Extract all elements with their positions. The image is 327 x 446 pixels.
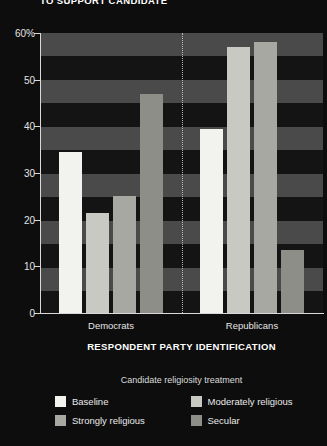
legend-item-label: Strongly religious [72, 415, 145, 426]
legend-title: Candidate religiosity treatment [40, 375, 323, 385]
bar-republicans-strongly-religious [254, 42, 277, 313]
y-tick-label-50: 50 [0, 75, 35, 86]
legend-item-strongly-religious: Strongly religious [55, 415, 185, 426]
legend-swatch-icon [191, 396, 202, 407]
legend-swatch-icon [55, 415, 66, 426]
bar-group-democrats [40, 33, 182, 313]
y-tick-label-0: 0 [0, 308, 35, 319]
bar-chart: TO SUPPORT CANDIDATE [0, 0, 327, 446]
x-axis-title: RESPONDENT PARTY IDENTIFICATION [40, 341, 323, 352]
legend: Baseline Moderately religious Strongly r… [55, 396, 320, 426]
legend-item-secular: Secular [191, 415, 321, 426]
legend-item-moderately-religious: Moderately religious [191, 396, 321, 407]
chart-title: TO SUPPORT CANDIDATE [40, 0, 167, 6]
x-category-label-republicans: Republicans [226, 320, 278, 331]
y-tick-label-30: 30 [0, 168, 35, 179]
y-axis-line [40, 33, 41, 314]
y-tick-label-10: 10 [0, 261, 35, 272]
bar-democrats-secular [140, 94, 163, 313]
legend-item-label: Moderately religious [208, 396, 293, 407]
bar-group-republicans [182, 33, 324, 313]
y-tick-label-60: 60% [0, 28, 35, 39]
bar-republicans-moderately-religious [227, 47, 250, 313]
legend-swatch-icon [191, 415, 202, 426]
bar-republicans-secular [281, 250, 304, 313]
plot-area [40, 33, 323, 313]
y-tick-label-20: 20 [0, 215, 35, 226]
bar-democrats-strongly-religious [113, 196, 136, 313]
legend-swatch-icon [55, 396, 66, 407]
x-category-label-democrats: Democrats [88, 320, 134, 331]
legend-item-label: Secular [208, 415, 240, 426]
bar-democrats-baseline [59, 152, 82, 313]
legend-item-label: Baseline [72, 396, 108, 407]
bar-democrats-moderately-religious [86, 213, 109, 313]
legend-item-baseline: Baseline [55, 396, 185, 407]
x-axis-line [40, 313, 324, 314]
bar-republicans-baseline [200, 129, 223, 313]
y-tick-label-40: 40 [0, 121, 35, 132]
